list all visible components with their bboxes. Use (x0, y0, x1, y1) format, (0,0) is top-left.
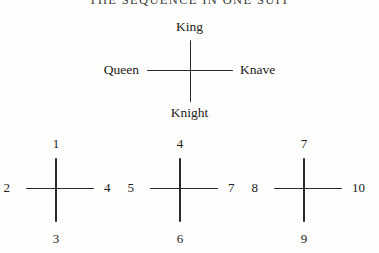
court-cross-label-top: King (0, 19, 379, 35)
number-cross-2-label-left: 5 (128, 180, 135, 196)
court-cross-horizontal-arm (147, 70, 233, 72)
figure-page: THE SEQUENCE IN ONE SUIT King Queen Knav… (0, 0, 379, 253)
number-cross-2-vertical-arm (179, 158, 181, 222)
number-cross-1-label-right: 4 (104, 180, 111, 196)
number-cross-2-horizontal-arm (150, 188, 218, 190)
number-cross-1-vertical-arm (55, 158, 57, 222)
number-cross-1-label-left: 2 (4, 180, 11, 196)
court-cross-label-right: Knave (240, 62, 275, 78)
number-cross-3-vertical-arm (303, 158, 305, 222)
court-cross-label-left: Queen (104, 62, 139, 78)
number-cross-2-label-right: 7 (228, 180, 235, 196)
number-cross-3-label-right: 10 (352, 180, 365, 196)
number-cross-3-label-left: 8 (252, 180, 259, 196)
number-cross-1: 1 2 4 3 (26, 130, 86, 253)
number-cross-1-label-bottom: 3 (26, 231, 86, 247)
number-cross-2-label-bottom: 6 (150, 231, 210, 247)
number-cross-2-label-top: 4 (150, 136, 210, 152)
number-cross-1-horizontal-arm (26, 188, 94, 190)
court-card-cross: King Queen Knave Knight (0, 0, 379, 125)
number-cross-2: 4 5 7 6 (150, 130, 210, 253)
number-cross-3: 7 8 10 9 (274, 130, 334, 253)
number-cross-3-horizontal-arm (274, 188, 342, 190)
number-cross-3-label-bottom: 9 (274, 231, 334, 247)
court-cross-label-bottom: Knight (0, 105, 379, 121)
number-cross-3-label-top: 7 (274, 136, 334, 152)
number-cross-1-label-top: 1 (26, 136, 86, 152)
